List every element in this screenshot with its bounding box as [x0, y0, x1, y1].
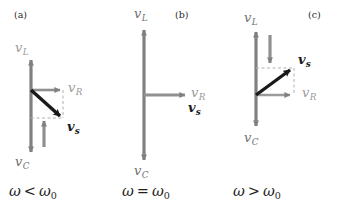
- panel-a-label-vL: vL: [15, 41, 29, 54]
- panel-a-label-vR: vR: [68, 81, 82, 94]
- panel-a-label-vs: vs: [67, 120, 80, 133]
- panel-a-vs-arrow: [31, 90, 60, 116]
- panel-a-condition: ω<ω0: [9, 184, 57, 199]
- panel-b-label-vC: vC: [134, 164, 148, 177]
- panel-b-condition: ω=ω0: [122, 184, 170, 199]
- panel-c-condition: ω>ω0: [233, 184, 281, 199]
- panel-b-label-vR: vR: [191, 86, 205, 99]
- phasor-diagram-figure: (a): [0, 0, 341, 216]
- panel-b-label-vL: vL: [134, 7, 148, 20]
- panel-c-vs-arrow: [256, 70, 290, 95]
- panel-c-label-vR: vR: [302, 86, 316, 99]
- panel-c-label-vC: vC: [244, 131, 258, 144]
- panel-b: (b) vL vR vs vC: [115, 0, 220, 216]
- panel-a-label-vC: vC: [15, 155, 29, 168]
- panel-b-label-vs: vs: [188, 101, 201, 114]
- panel-c-label-vs: vs: [298, 53, 311, 66]
- panel-c: (c): [220, 0, 341, 216]
- panel-a: (a): [0, 0, 115, 216]
- panel-c-label-vL: vL: [244, 11, 258, 24]
